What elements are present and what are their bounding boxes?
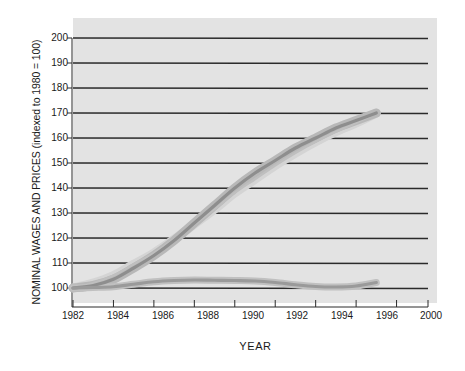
gridline-200 bbox=[73, 38, 428, 39]
plot-background bbox=[73, 18, 437, 303]
y-tick-marks-group bbox=[67, 38, 72, 307]
gridline-150 bbox=[73, 163, 428, 164]
gridline-180 bbox=[73, 88, 428, 89]
gridline-190 bbox=[73, 63, 428, 64]
chart-figure: NOMINAL WAGES AND PRICES (indexed to 198… bbox=[0, 0, 465, 371]
gridline-130 bbox=[73, 213, 428, 214]
gridline-140 bbox=[73, 188, 428, 189]
chart-svg bbox=[0, 0, 465, 371]
gridline-160 bbox=[73, 138, 428, 139]
gridline-120 bbox=[73, 238, 428, 239]
